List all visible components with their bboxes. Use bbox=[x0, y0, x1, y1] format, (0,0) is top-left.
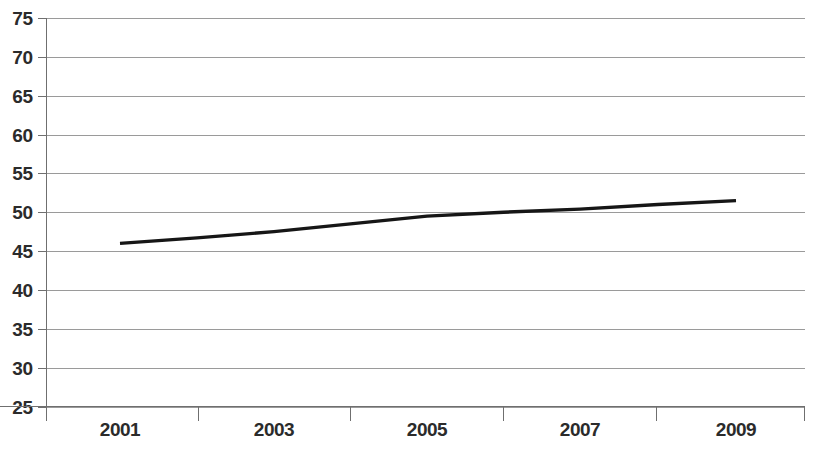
chart-canvas: 2530354045505560657075 20012003200520072… bbox=[0, 0, 815, 451]
y-axis-tick-label: 40 bbox=[12, 280, 32, 301]
y-axis-tick-label: 50 bbox=[12, 202, 32, 223]
x-axis-tick-label: 2005 bbox=[407, 419, 448, 440]
line-chart: 2530354045505560657075 20012003200520072… bbox=[0, 0, 815, 451]
x-axis-tick-label: 2007 bbox=[560, 419, 600, 440]
y-axis-tick-label: 55 bbox=[12, 163, 33, 184]
y-axis-tick-label: 30 bbox=[12, 358, 32, 379]
x-axis-tick-label: 2009 bbox=[716, 419, 756, 440]
y-axis-tick-label: 35 bbox=[12, 319, 33, 340]
x-axis-tick-label: 2001 bbox=[100, 419, 141, 440]
x-axis-tick-label: 2003 bbox=[254, 419, 294, 440]
y-axis-tick-label: 75 bbox=[12, 8, 33, 29]
y-axis-tick-label: 70 bbox=[12, 47, 32, 68]
y-axis-tick-label: 60 bbox=[12, 125, 32, 146]
y-axis-tick-label: 45 bbox=[12, 241, 33, 262]
chart-background bbox=[0, 0, 815, 451]
y-axis-tick-label: 65 bbox=[12, 86, 33, 107]
